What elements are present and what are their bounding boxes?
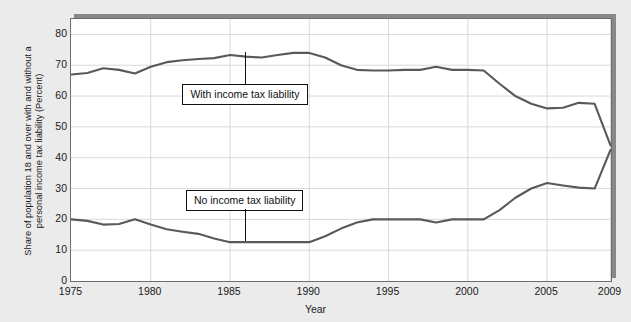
x-tick-label: 1980 [138, 285, 161, 297]
x-tick-label: 1975 [59, 285, 82, 297]
x-axis-title: Year [0, 303, 631, 315]
series-line-with-income-tax-liability [72, 53, 611, 145]
gridlines [71, 19, 611, 281]
no-income-tax-liability-callout-leader-line [245, 209, 246, 241]
x-tick-label: 1995 [376, 285, 399, 297]
x-tick-label: 1990 [297, 285, 320, 297]
series-lines [72, 53, 611, 242]
with-income-tax-liability-callout: With income tax liability [182, 84, 307, 105]
x-tick-label: 2005 [534, 285, 557, 297]
x-tick-label: 1985 [217, 285, 240, 297]
chart-figure: Share of population 18 and over with and… [0, 0, 631, 322]
no-income-tax-liability-callout: No income tax liability [186, 190, 304, 211]
plot-area [70, 18, 612, 282]
with-income-tax-liability-callout-leader-line [245, 52, 246, 84]
chart-canvas [71, 19, 611, 281]
series-line-no-income-tax-liability [72, 150, 611, 242]
x-tick-label: 2009 [598, 285, 621, 297]
x-tick-label: 2000 [455, 285, 478, 297]
